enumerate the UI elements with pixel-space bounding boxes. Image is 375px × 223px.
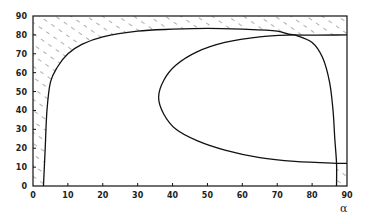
y-tick-label: 20	[16, 144, 28, 153]
hatched-region-top-left	[33, 16, 347, 186]
chart: 0102030405060708090 0102030405060708090 …	[0, 0, 375, 223]
x-tick-label: 50	[202, 191, 214, 200]
y-tick-label: 80	[16, 31, 28, 40]
x-tick-label: 30	[132, 191, 144, 200]
y-tick-label: 90	[16, 12, 28, 21]
x-tick-label: 60	[237, 191, 249, 200]
y-tick-label: 40	[16, 106, 28, 115]
y-tick-label: 60	[16, 69, 28, 78]
y-tick-label: 10	[16, 163, 28, 172]
loop-curve	[159, 35, 347, 164]
hatched-region-bottom-right	[337, 163, 347, 186]
curves	[43, 28, 347, 186]
hatched-regions	[33, 16, 347, 186]
x-tick-label: 70	[272, 191, 284, 200]
x-tick-label: 20	[97, 191, 109, 200]
x-tick-label: 10	[62, 191, 74, 200]
x-tick-label: 40	[167, 191, 179, 200]
x-axis-label: α	[340, 202, 348, 215]
y-tick-label: 70	[16, 50, 28, 59]
x-tick-label: 80	[307, 191, 319, 200]
y-tick-label: 30	[16, 125, 28, 134]
x-tick-label: 0	[30, 191, 36, 200]
x-tick-label: 90	[341, 191, 353, 200]
y-tick-label: 50	[16, 88, 28, 97]
y-tick-label: 0	[21, 182, 27, 191]
